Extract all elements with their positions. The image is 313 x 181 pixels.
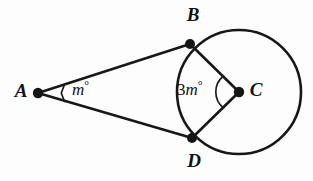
- vertex-dot-a: [33, 88, 43, 98]
- segment-ad: [38, 93, 192, 138]
- angle-label-c: 3m°: [177, 78, 203, 99]
- point-label-a: A: [14, 80, 28, 101]
- segment-dc: [192, 92, 239, 138]
- angle-c-degree-icon: °: [198, 78, 203, 92]
- vertex-dot-c: [234, 87, 244, 97]
- vertex-dot-b: [185, 39, 195, 49]
- point-label-b: B: [186, 4, 200, 25]
- vertex-dot-d: [187, 133, 197, 143]
- angle-a-variable: m: [72, 80, 84, 99]
- geometry-diagram: A B C D m° 3m°: [0, 0, 313, 181]
- angle-c-coefficient: 3: [177, 80, 186, 99]
- geometry-canvas: A B C D m° 3m°: [0, 0, 313, 181]
- angle-a-degree-icon: °: [84, 78, 89, 92]
- angle-c-variable: m: [186, 80, 198, 99]
- angle-arc-c: [216, 76, 224, 108]
- point-label-c: C: [250, 79, 263, 100]
- segment-ab: [38, 44, 190, 93]
- point-label-d: D: [186, 150, 201, 171]
- angle-label-a: m°: [72, 78, 89, 99]
